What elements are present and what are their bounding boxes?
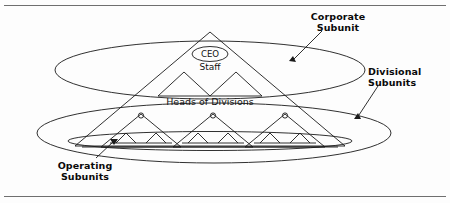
callout-label-operating-line2: Subunits	[36, 171, 134, 182]
operating-triangle-2b	[218, 133, 238, 143]
staff-label: Staff	[188, 62, 232, 72]
callout-label-divisional-line2: Subunits	[368, 77, 448, 88]
corporate-inner-triangles	[158, 72, 262, 96]
heads-of-divisions-label: Heads of Divisions	[145, 96, 275, 107]
callout-label-divisional-line1: Divisional	[368, 66, 448, 77]
operating-triangle-1a	[116, 133, 136, 143]
figure-frame: Corporate Subunit Divisional Subunits Op…	[0, 0, 450, 203]
callout-label-corporate-line2: Subunit	[290, 22, 386, 33]
operating-triangle-2a	[188, 133, 208, 143]
divisional-callout-leader	[357, 86, 378, 118]
callout-label-corporate: Corporate Subunit	[290, 11, 386, 33]
operating-triangle-3a	[260, 133, 280, 143]
corporate-callout-arrowhead	[289, 56, 296, 62]
ceo-label: CEO	[188, 49, 232, 59]
operating-triangle-1b	[146, 133, 166, 143]
callout-label-corporate-line1: Corporate	[290, 11, 386, 22]
callout-label-divisional: Divisional Subunits	[368, 66, 448, 88]
operating-subunits-ellipse	[68, 132, 352, 151]
callout-label-operating: Operating Subunits	[36, 160, 134, 182]
callout-label-operating-line1: Operating	[36, 160, 134, 171]
division-triangle-2	[173, 114, 253, 147]
